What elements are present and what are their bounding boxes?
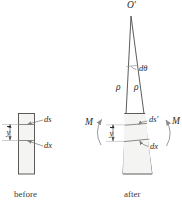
figure-canvas bbox=[0, 0, 182, 204]
caption-before: before bbox=[14, 190, 37, 199]
moment-arrow-left bbox=[97, 120, 101, 146]
label-dx-after: dx bbox=[150, 142, 158, 151]
label-moment-right: M bbox=[172, 117, 180, 127]
label-ds-prime: ds′ bbox=[149, 115, 158, 124]
after-beam-body bbox=[123, 114, 152, 175]
moment-arrow-right bbox=[166, 120, 170, 146]
label-dx-before: dx bbox=[44, 141, 52, 150]
caption-after: after bbox=[124, 190, 140, 199]
label-rho-right: ρ bbox=[134, 83, 139, 93]
label-moment-left: M bbox=[85, 118, 93, 128]
label-d-theta: dθ bbox=[139, 64, 147, 73]
label-ybar-after: y bbox=[110, 129, 114, 138]
label-ybar-before: y bbox=[7, 128, 11, 137]
label-center-of-curvature: O′ bbox=[127, 1, 136, 11]
label-rho-left: ρ bbox=[116, 83, 121, 93]
label-ds-before: ds bbox=[44, 115, 52, 124]
beam-bending-figure: ds dx y O′ dθ ρ ρ ds′ dx y M M before af… bbox=[0, 0, 182, 204]
